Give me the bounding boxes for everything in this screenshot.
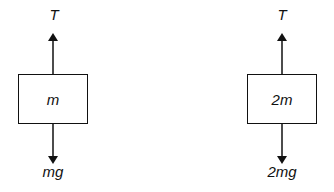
mass-box-left: m [18, 74, 88, 124]
tension-label-right: T [277, 6, 286, 23]
mass-box-right: 2m [247, 74, 317, 124]
weight-label-right: 2mg [267, 163, 296, 180]
tension-label-left: T [49, 6, 58, 23]
weight-label-left: mg [43, 163, 64, 180]
mass-label-right: 2m [272, 91, 293, 108]
mass-label-left: m [47, 91, 60, 108]
